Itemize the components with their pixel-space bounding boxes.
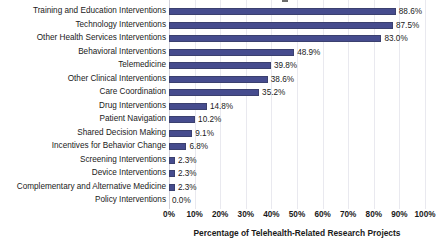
x-tick-label: 80% [366,210,382,219]
bar[interactable] [169,76,268,83]
bar-value-label: 87.5% [393,19,419,33]
bar-row[interactable]: 10.2% [169,112,221,126]
category-label: Care Coordination [0,85,166,99]
category-label: Complementary and Alternative Medicine [0,180,166,194]
bar[interactable] [169,89,259,96]
x-tick-label: 40% [263,210,279,219]
bar[interactable] [169,22,393,29]
category-label: Drug Interventions [0,99,166,113]
x-tick-label: 60% [314,210,330,219]
bar-row[interactable]: 39.8% [169,58,297,72]
x-tick-label: 10% [186,210,202,219]
x-tick-label: 50% [289,210,305,219]
bar-value-label: 38.6% [268,73,294,87]
bar-value-label: 2.3% [175,167,197,181]
bar-value-label: 14.8% [207,100,233,114]
bar[interactable] [169,130,192,137]
bar-value-label: 83.0% [381,32,407,46]
bar-value-label: 39.8% [271,59,297,73]
gridline-100 [425,0,426,209]
x-tick-label: 100% [415,210,436,219]
bar-row[interactable]: 35.2% [169,85,285,99]
bar-value-label: 6.8% [186,140,208,154]
bar-row[interactable]: 2.3% [169,153,197,167]
bar-row[interactable]: 2.3% [169,180,197,194]
bar-value-label: 10.2% [195,113,221,127]
bar-value-label: 35.2% [259,86,285,100]
category-label: Screening Interventions [0,153,166,167]
category-label: Other Health Services Interventions [0,31,166,45]
category-label: Policy Interventions [0,193,166,207]
bar-row[interactable]: 14.8% [169,99,233,113]
category-label: Behavioral Interventions [0,45,166,59]
category-label: Patient Navigation [0,112,166,126]
x-axis-title: Percentage of Telehealth-Related Researc… [169,228,425,238]
category-label: Device Interventions [0,166,166,180]
bar[interactable] [169,116,195,123]
bar-value-label: 2.3% [175,154,197,168]
bar[interactable] [169,143,186,150]
bar[interactable] [169,8,396,15]
bar-value-label: 0.0% [169,194,191,208]
category-label: Telemedicine [0,58,166,72]
bar-row[interactable]: 0.0% [169,193,191,207]
bar-row[interactable]: 2.3% [169,166,197,180]
category-label: Other Clinical Interventions [0,72,166,86]
x-tick-label: 20% [212,210,228,219]
x-tick-label: 0% [163,210,175,219]
bar-value-label: 48.9% [294,46,320,60]
bar-row[interactable]: 38.6% [169,72,294,86]
category-label: Technology Interventions [0,18,166,32]
x-tick-label: 30% [238,210,254,219]
bar-value-label: 2.3% [175,181,197,195]
bar-row[interactable]: 88.6% [169,4,422,18]
bar[interactable] [169,103,207,110]
bar-row[interactable]: 6.8% [169,139,208,153]
bar-value-label: 9.1% [192,127,214,141]
bar-chart: Training and Education InterventionsTech… [0,0,442,241]
x-axis-tick-labels: 0%10%20%30%40%50%60%70%80%90%100% [169,210,425,223]
bar-row[interactable]: 87.5% [169,18,419,32]
category-label: Shared Decision Making [0,126,166,140]
category-label: Training and Education Interventions [0,4,166,18]
bar[interactable] [169,35,381,42]
bar-row[interactable]: 9.1% [169,126,214,140]
x-tick-label: 70% [340,210,356,219]
bar-row[interactable]: 83.0% [169,31,408,45]
category-label: Incentives for Behavior Change [0,139,166,153]
bar-row[interactable]: 48.9% [169,45,320,59]
bar[interactable] [169,62,271,69]
bar-value-label: 88.6% [396,5,422,19]
x-tick-label: 90% [391,210,407,219]
bar[interactable] [169,49,294,56]
